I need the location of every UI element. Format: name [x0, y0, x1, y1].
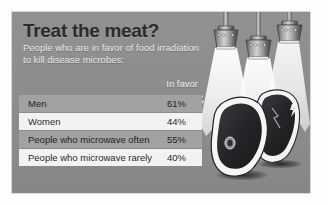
- table-row: People who microwave often 55%: [19, 131, 202, 148]
- table-row: People who microwave rarely 40%: [19, 149, 202, 166]
- row-value: 55%: [167, 134, 197, 145]
- infographic-panel: Treat the meat? People who are in favor …: [11, 11, 311, 194]
- row-label: People who microwave often: [28, 134, 167, 145]
- page-subtitle: People who are in favor of food irradiat…: [23, 42, 203, 65]
- row-value: 44%: [167, 116, 197, 127]
- infographic-root: Treat the meat? People who are in favor …: [0, 0, 329, 205]
- page-title: Treat the meat?: [23, 20, 159, 42]
- row-label: Women: [28, 116, 167, 127]
- table-header-row: In favor: [19, 78, 202, 93]
- row-value: 61%: [167, 98, 197, 109]
- row-label: People who microwave rarely: [28, 152, 167, 163]
- table-row: Men 61%: [19, 95, 202, 112]
- column-header-in-favor: In favor: [166, 78, 198, 89]
- row-label: Men: [28, 98, 167, 109]
- panel-content: Treat the meat? People who are in favor …: [12, 12, 311, 194]
- row-value: 40%: [167, 152, 197, 163]
- table-body: Men 61% Women 44% People who microwave o…: [19, 95, 202, 166]
- table-row: Women 44%: [19, 113, 202, 130]
- survey-table: In favor Men 61% Women 44% People who mi…: [19, 78, 202, 167]
